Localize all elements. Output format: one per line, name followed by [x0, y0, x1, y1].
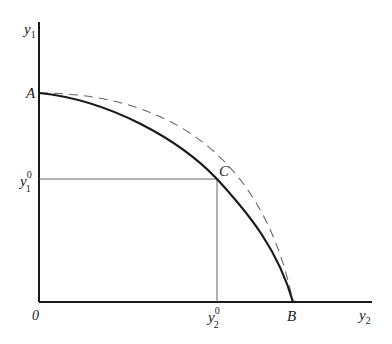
solid-frontier-curve — [39, 93, 293, 302]
y-axis-label: y1 — [22, 21, 36, 40]
point-c-label: C — [219, 163, 230, 179]
ppf-diagram: y1 A y01 C 0 y02 B y2 — [0, 0, 392, 344]
point-b-label: B — [287, 308, 296, 324]
y2-0-tick-label: y02 — [206, 305, 220, 330]
point-a-label: A — [25, 85, 36, 101]
y1-0-tick-label: y01 — [18, 169, 32, 194]
dashed-frontier-curve — [39, 93, 293, 302]
origin-label: 0 — [32, 308, 39, 323]
x-axis-label: y2 — [357, 307, 371, 326]
